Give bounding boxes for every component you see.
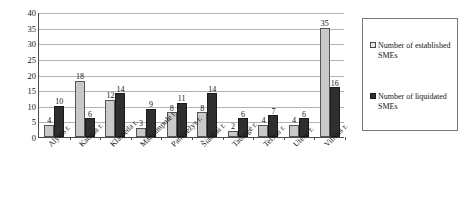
legend-item-established: Number of established SMEs (370, 41, 454, 61)
bar-group: 3516 (314, 13, 345, 137)
bar-value-label: 8 (200, 105, 204, 113)
x-axis-tick (284, 137, 285, 140)
y-axis-tick-label: 10 (28, 103, 37, 112)
bar-value-label: 14 (208, 86, 216, 94)
bar-value-label: 4 (261, 117, 265, 125)
legend-swatch-established-icon (370, 42, 376, 48)
bar-value-label: 3 (139, 120, 143, 128)
bar-group: 39 (131, 13, 162, 137)
bar-value-label: 6 (302, 111, 306, 119)
x-axis-tick (345, 137, 346, 140)
bar-group: 1214 (100, 13, 131, 137)
x-axis-tick (223, 137, 224, 140)
y-axis-tick-label: 15 (28, 87, 37, 96)
bar-group: 47 (253, 13, 284, 137)
x-axis-tick (131, 137, 132, 140)
bar-value-label: 6 (88, 111, 92, 119)
x-axis-tick (314, 137, 315, 140)
bar-value-label: 9 (149, 101, 153, 109)
bar-value-label: 4 (47, 117, 51, 125)
x-axis-tick (192, 137, 193, 140)
bar-value-label: 14 (116, 86, 124, 94)
bar-established: 18 (75, 81, 85, 137)
chart-legend: Number of established SMEs Number of liq… (362, 18, 458, 131)
bar-group: 186 (70, 13, 101, 137)
y-axis-tick-label: 40 (28, 9, 37, 18)
bar-established: 12 (105, 100, 115, 138)
x-axis-tick (253, 137, 254, 140)
x-axis-tick (161, 137, 162, 140)
bar-group: 410 (39, 13, 70, 137)
bar-value-label: 10 (55, 98, 63, 106)
bar-group: 26 (223, 13, 254, 137)
bar-established: 35 (320, 28, 330, 137)
y-axis-tick-label: 35 (28, 24, 37, 33)
bar-group: 46 (284, 13, 315, 137)
y-axis-tick-label: 30 (28, 40, 37, 49)
bar-value-label: 18 (76, 73, 84, 81)
bar-chart: 0510152025303540 41018612143981181426474… (0, 0, 350, 209)
y-axis-tick-label: 25 (28, 56, 37, 65)
chart-screenshot: 0510152025303540 41018612143981181426474… (0, 0, 468, 209)
x-axis-tick (100, 137, 101, 140)
bar-value-label: 35 (321, 20, 329, 28)
bar-value-label: 7 (271, 108, 275, 116)
x-axis-tick (70, 137, 71, 140)
bar-value-label: 2 (231, 123, 235, 131)
bar-value-label: 4 (292, 117, 296, 125)
legend-item-liquidated: Number of liquidated SMEs (370, 92, 454, 112)
legend-label-liquidated: Number of liquidated SMEs (378, 92, 454, 112)
bar-value-label: 11 (178, 95, 186, 103)
y-axis-tick-label: 5 (32, 118, 36, 127)
bar-value-label: 6 (241, 111, 245, 119)
legend-label-established: Number of established SMEs (378, 41, 454, 61)
y-axis-tick-label: 20 (28, 71, 37, 80)
bar-value-label: 12 (106, 92, 114, 100)
legend-swatch-liquidated-icon (370, 93, 376, 99)
y-axis-tick-label: 0 (32, 134, 36, 143)
bar-value-label: 16 (331, 80, 339, 88)
